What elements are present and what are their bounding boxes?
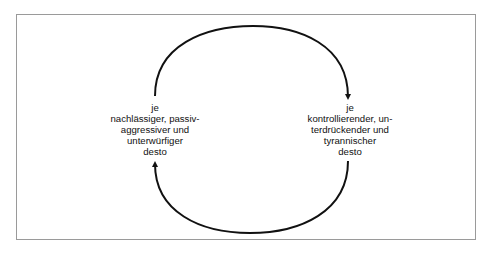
node-left-line-5: desto — [102, 146, 208, 157]
node-left-line-4: unterwürfiger — [102, 135, 208, 146]
node-left-line-2: nachlässiger, passiv- — [102, 113, 208, 124]
node-left-line-3: aggressiver und — [102, 124, 208, 135]
node-right-line-5: desto — [297, 146, 403, 157]
lower-arc-arrow — [155, 161, 348, 233]
node-right-line-3: terdrückender und — [297, 124, 403, 135]
node-left-passive: je nachlässiger, passiv- aggressiver und… — [102, 102, 208, 157]
node-right-controlling: je kontrollierender, un- terdrückender u… — [297, 102, 403, 157]
node-right-line-1: je — [297, 102, 403, 113]
node-left-line-1: je — [102, 102, 208, 113]
cycle-arrows — [0, 0, 493, 255]
node-right-line-2: kontrollierender, un- — [297, 113, 403, 124]
node-right-line-4: tyrannischer — [297, 135, 403, 146]
upper-arc-arrow — [155, 26, 348, 97]
